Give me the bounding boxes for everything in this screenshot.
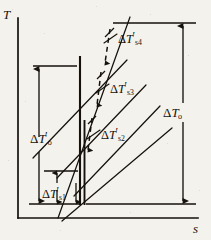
process-line-group	[80, 56, 85, 205]
isobar-4	[74, 106, 160, 196]
delta-T-s2-label: ΔT′s2	[101, 127, 125, 143]
delta-T-o-primed-label: ΔT′o	[30, 130, 52, 147]
delta-T-s4-label: ΔT′s4	[118, 31, 142, 47]
delta-T-s1-label: ΔT′s1	[42, 186, 66, 202]
entropy-axis-label: s	[193, 222, 198, 235]
temperature-axis-label: T	[3, 8, 10, 21]
delta-T-s3-label: ΔT′s3	[110, 81, 134, 97]
ts-diagram-figure: T s ΔT′s4 ΔT′s3 ΔT′s2 ΔT′s1 ΔT′o ΔTo	[0, 0, 211, 240]
delta-T-o-label: ΔTo	[163, 104, 182, 121]
